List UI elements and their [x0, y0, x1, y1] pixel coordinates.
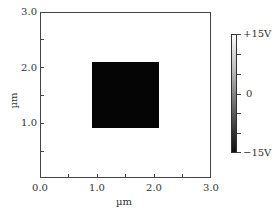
- colorbar-tick: [237, 74, 241, 75]
- y-minor-tick: [40, 151, 44, 152]
- y-tick-label: 3.0: [7, 6, 37, 17]
- x-minor-tick: [68, 174, 69, 178]
- colorbar-tick: [237, 113, 241, 114]
- x-minor-tick: [125, 174, 126, 178]
- y-major-tick: [40, 123, 44, 124]
- y-minor-tick: [40, 95, 44, 96]
- y-axis-title: µm: [8, 93, 19, 109]
- y-tick-label: 1.0: [7, 117, 37, 128]
- x-major-tick: [97, 174, 98, 178]
- x-tick-label: 0.0: [25, 182, 55, 193]
- colorbar-tick: [237, 94, 241, 95]
- colorbar-tick: [237, 34, 241, 35]
- x-tick-label: 2.0: [139, 182, 169, 193]
- negative-voltage-square: [92, 62, 159, 128]
- colorbar-tick: [237, 133, 241, 134]
- y-major-tick: [40, 67, 44, 68]
- colorbar-tick: [237, 152, 241, 153]
- x-tick-label: 3.0: [196, 182, 226, 193]
- y-minor-tick: [40, 39, 44, 40]
- x-major-tick: [154, 174, 155, 178]
- x-axis-title: µm: [116, 196, 132, 207]
- x-minor-tick: [182, 174, 183, 178]
- colorbar-label-zero: 0: [246, 88, 252, 99]
- colorbar-label-min: −15V: [243, 147, 271, 158]
- y-tick-label: 2.0: [7, 62, 37, 73]
- x-tick-label: 1.0: [82, 182, 112, 193]
- colorbar-label-max: +15V: [243, 28, 271, 39]
- colorbar-tick: [237, 54, 241, 55]
